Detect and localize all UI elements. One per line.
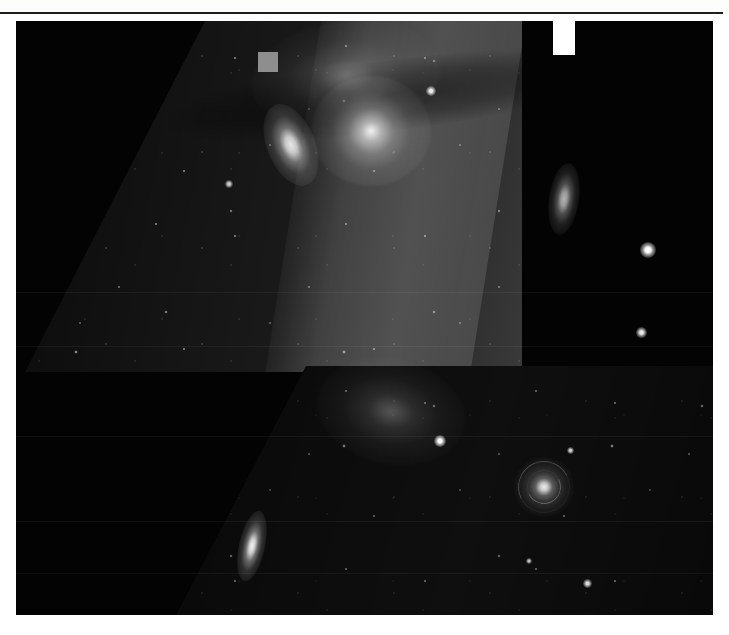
page-canvas [0, 0, 729, 635]
scan-seam [16, 436, 713, 437]
gray-square-marker[interactable] [258, 52, 278, 72]
bright-field-star [640, 242, 656, 258]
lower-panel-wash [16, 366, 713, 615]
paper-margin-right [713, 21, 729, 615]
white-notch-tab[interactable] [553, 21, 575, 55]
lower-exposure-panel [16, 366, 713, 615]
scan-seam [16, 292, 713, 293]
paper-margin-bottom [0, 615, 729, 635]
scan-seam [16, 346, 713, 347]
scan-seam [16, 573, 713, 574]
scan-seam [16, 521, 713, 522]
upper-exposure-panel [16, 21, 713, 381]
bright-field-star [636, 327, 647, 338]
edge-on-galaxy-right [544, 161, 584, 236]
paper-margin-top [0, 14, 729, 21]
astronomical-image-plate[interactable] [16, 21, 713, 615]
paper-margin-left [0, 14, 16, 615]
